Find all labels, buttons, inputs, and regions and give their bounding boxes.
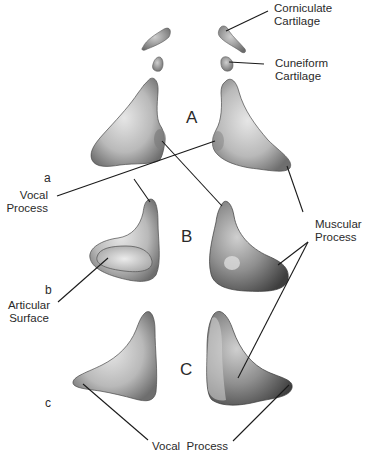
leader-corniculate [226, 11, 268, 31]
label-cuneiform-line1: Cuneiform [275, 57, 328, 70]
leader-vocal-process-b-left [134, 179, 150, 202]
view-sublabel-c: c [45, 397, 51, 409]
cuneiform-cartilage-left [153, 57, 163, 71]
cuneiform-cartilage-right [221, 57, 233, 71]
label-vocal-process-bottom: Vocal Process [152, 440, 228, 453]
arytenoid-b-right [210, 201, 289, 291]
label-articular-surface: Articular Surface [6, 299, 52, 325]
corniculate-cartilage-right [218, 26, 245, 53]
arytenoid-b-left [90, 199, 159, 281]
label-vocal-process-left: Vocal Process [6, 189, 48, 215]
label-muscular-process-line2: Process [315, 231, 362, 244]
label-articular-surface-line1: Articular [6, 299, 52, 312]
label-corniculate-cartilage: Corniculate Cartilage [274, 2, 332, 28]
label-vocal-process-line2: Process [6, 202, 48, 215]
label-corniculate-line2: Cartilage [274, 15, 332, 28]
corniculate-cartilage-left [142, 28, 170, 50]
view-letter-c: C [180, 361, 192, 378]
label-muscular-process-line1: Muscular [315, 218, 362, 231]
arytenoid-a-right [212, 79, 291, 171]
leader-cuneiform [229, 62, 264, 64]
view-letter-a: A [186, 109, 197, 126]
view-sublabel-b: b [45, 284, 52, 296]
leader-muscular-process-b-right [278, 242, 308, 265]
view-sublabel-a: a [44, 172, 51, 184]
view-letter-b: B [181, 228, 192, 245]
arytenoid-c-left [73, 312, 157, 401]
label-cuneiform-line2: Cartilage [275, 70, 328, 83]
label-articular-surface-line2: Surface [6, 312, 52, 325]
leader-muscular-process-a-left [162, 141, 222, 206]
leader-articular-surface [58, 258, 108, 302]
label-cuneiform-cartilage: Cuneiform Cartilage [275, 57, 328, 83]
laryngeal-cartilage-diagram: A B C a b c Corniculate Cartilage Cuneif… [0, 0, 365, 456]
label-muscular-process: Muscular Process [315, 218, 362, 244]
leader-muscular-process-a-right [287, 166, 303, 212]
label-corniculate-line1: Corniculate [274, 2, 332, 15]
label-vocal-process-line1: Vocal [6, 189, 48, 202]
arytenoid-c-right [207, 311, 292, 405]
arytenoid-a-left [91, 78, 166, 166]
